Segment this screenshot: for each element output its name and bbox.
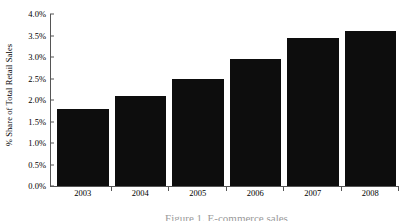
bar (230, 59, 282, 186)
x-axis-tick-label: 2008 (342, 188, 400, 198)
bar (345, 31, 397, 186)
x-axis-tick-label: 2007 (284, 188, 342, 198)
bar (57, 109, 109, 186)
y-axis-tick-label: 4.0% (28, 9, 46, 19)
figure-caption-text: Figure 1. E-commerce sales (54, 213, 399, 221)
y-axis-tick-label: 1.5% (28, 117, 46, 127)
bar-group (112, 14, 170, 186)
y-axis-tick-label: 2.0% (28, 95, 46, 105)
y-axis-tick-label: 0.0% (28, 181, 46, 191)
x-axis-tick-label: 2006 (227, 188, 285, 198)
bar-group (227, 14, 285, 186)
bar (115, 96, 167, 186)
y-axis-tick-label: 2.5% (28, 74, 46, 84)
x-axis-tick-label: 2004 (112, 188, 170, 198)
bar-group (169, 14, 227, 186)
y-axis-tick-label: 0.5% (28, 160, 46, 170)
x-axis-tick-label: 2003 (54, 188, 112, 198)
bar (287, 38, 339, 186)
bar (172, 79, 224, 187)
y-axis-tick-labels: 0.0%0.5%1.0%1.5%2.0%2.5%3.0%3.5%4.0% (16, 14, 50, 186)
bar-group (284, 14, 342, 186)
y-axis-tick-label: 3.5% (28, 31, 46, 41)
chart-figure: % Share of Total Retail Sales 0.0%0.5%1.… (0, 0, 409, 221)
y-axis-title-text: % Share of Total Retail Sales (4, 44, 14, 146)
x-axis-tick-label: 2005 (169, 188, 227, 198)
y-axis-tick-label: 1.0% (28, 138, 46, 148)
bar-group (54, 14, 112, 186)
x-axis-tick-labels: 200320042005200620072008 (54, 188, 399, 204)
bar-series (54, 14, 399, 186)
y-axis-tick-label: 3.0% (28, 52, 46, 62)
plot-area (54, 14, 399, 186)
figure-caption: Figure 1. E-commerce sales (54, 210, 399, 221)
bar-group (342, 14, 400, 186)
